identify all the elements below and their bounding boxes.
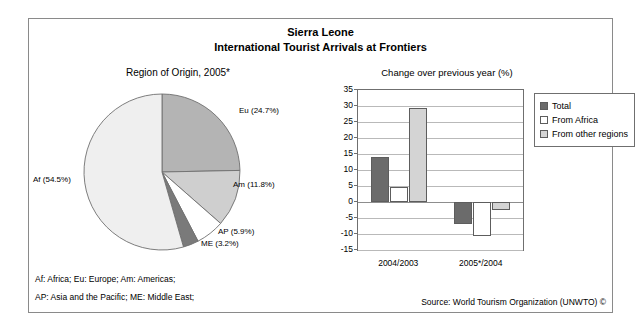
legend-swatch-icon xyxy=(540,130,548,138)
bar-from-africa xyxy=(473,202,491,236)
y-axis-tick-label: -15 xyxy=(329,244,353,254)
gridline xyxy=(358,154,523,155)
footnote-regions-2: AP: Asia and the Pacific; ME: Middle Eas… xyxy=(35,292,194,302)
y-axis-tick-label: -10 xyxy=(329,228,353,238)
legend-label: Total xyxy=(552,101,571,111)
pie-slice-label-af: Af (54.5%) xyxy=(33,175,71,184)
source-attribution: Source: World Tourism Organization (UNWT… xyxy=(421,297,606,307)
legend-item: From other regions xyxy=(540,127,628,141)
bar-total xyxy=(371,157,389,202)
y-axis-tick-mark xyxy=(354,217,357,218)
bar-chart-plot-area xyxy=(357,89,524,251)
y-axis-tick-mark xyxy=(354,201,357,202)
y-axis-tick-label: 35 xyxy=(329,84,353,94)
pie-chart-panel: Region of Origin, 2005* Eu (24.7%) Am (1… xyxy=(33,67,333,267)
gridline xyxy=(358,218,523,219)
gridline xyxy=(358,106,523,107)
gridline xyxy=(358,234,523,235)
pie-slice-label-ap: AP (5.9%) xyxy=(218,227,254,236)
pie-slice-eu xyxy=(162,94,240,172)
bar-chart-panel: Change over previous year (%) 3530252015… xyxy=(329,67,611,277)
pie-slice-label-me: ME (3.2%) xyxy=(201,239,239,248)
y-axis-tick-mark xyxy=(354,121,357,122)
y-axis-tick-label: 25 xyxy=(329,116,353,126)
bar-from-africa xyxy=(390,187,408,202)
y-axis-tick-mark xyxy=(354,137,357,138)
x-axis-tick-label: 2004/2003 xyxy=(378,258,418,268)
y-axis-tick-label: 0 xyxy=(329,196,353,206)
legend-item: Total xyxy=(540,99,628,113)
chart-figure-frame: Sierra Leone International Tourist Arriv… xyxy=(28,18,613,313)
y-axis-tick-label: 10 xyxy=(329,164,353,174)
y-axis-tick-mark xyxy=(354,153,357,154)
y-axis-tick-label: 5 xyxy=(329,180,353,190)
gridline xyxy=(358,138,523,139)
y-axis-tick-label: 30 xyxy=(329,100,353,110)
bar-chart-legend: TotalFrom AfricaFrom other regions xyxy=(534,93,635,147)
y-axis-tick-mark xyxy=(354,185,357,186)
y-axis-tick-label: -5 xyxy=(329,212,353,222)
bar-total xyxy=(454,202,472,224)
y-axis-tick-label: 20 xyxy=(329,132,353,142)
bar-from-other-regions xyxy=(492,202,510,210)
figure-title-line1: Sierra Leone xyxy=(29,25,612,40)
pie-slices xyxy=(84,94,240,250)
gridline xyxy=(358,122,523,123)
bar-chart-title: Change over previous year (%) xyxy=(347,67,547,78)
pie-slice-label-am: Am (11.8%) xyxy=(233,180,275,189)
y-axis-tick-label: 15 xyxy=(329,148,353,158)
y-axis-tick-mark xyxy=(354,233,357,234)
footnote-regions-1: Af: Africa; Eu: Europe; Am: Americas; xyxy=(35,274,175,284)
y-axis-tick-mark xyxy=(354,249,357,250)
figure-title-line2: International Tourist Arrivals at Fronti… xyxy=(29,40,612,55)
legend-swatch-icon xyxy=(540,116,548,124)
legend-swatch-icon xyxy=(540,102,548,110)
y-axis-tick-mark xyxy=(354,89,357,90)
pie-slice-label-eu: Eu (24.7%) xyxy=(239,106,279,115)
x-axis-tick-label: 2005*/2004 xyxy=(459,258,503,268)
legend-label: From Africa xyxy=(552,115,598,125)
y-axis-tick-mark xyxy=(354,105,357,106)
y-axis-tick-mark xyxy=(354,169,357,170)
pie-chart-title: Region of Origin, 2005* xyxy=(33,67,323,78)
figure-title: Sierra Leone International Tourist Arriv… xyxy=(29,25,612,55)
legend-item: From Africa xyxy=(540,113,628,127)
legend-label: From other regions xyxy=(552,129,628,139)
gridline xyxy=(358,250,523,251)
bar-from-other-regions xyxy=(409,108,427,202)
